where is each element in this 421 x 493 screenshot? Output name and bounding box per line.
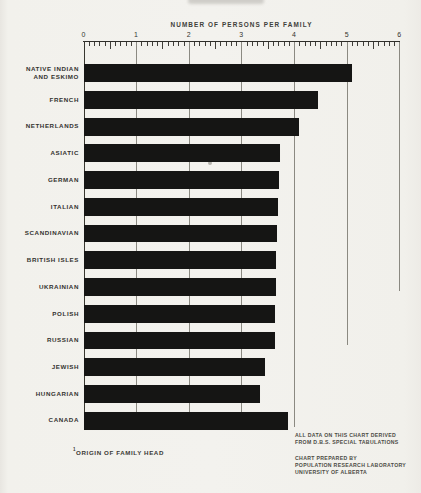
x-minor-tick bbox=[105, 42, 106, 47]
bar-ukrainian bbox=[84, 278, 277, 296]
bar-asiatic bbox=[84, 144, 281, 162]
x-minor-tick bbox=[178, 42, 179, 47]
x-minor-tick bbox=[310, 42, 311, 47]
bar-jewish bbox=[84, 358, 266, 376]
x-minor-tick bbox=[126, 42, 127, 47]
page: NUMBER OF PERSONS PER FAMILY 0123456NATI… bbox=[0, 0, 421, 493]
footnote-text: ORIGIN OF FAMILY HEAD bbox=[76, 449, 164, 456]
bar-italian bbox=[84, 198, 279, 216]
x-tick-label-2: 2 bbox=[187, 31, 191, 38]
bar-scandinavian bbox=[84, 225, 278, 243]
source-line: ALL DATA ON THIS CHART DERIVED bbox=[295, 432, 399, 439]
x-minor-tick bbox=[152, 42, 153, 47]
x-minor-tick bbox=[199, 42, 200, 47]
x-minor-tick bbox=[357, 42, 358, 47]
x-minor-tick bbox=[184, 42, 185, 47]
x-minor-tick bbox=[252, 42, 253, 47]
x-minor-tick bbox=[147, 42, 148, 47]
x-minor-tick bbox=[215, 42, 216, 49]
x-minor-tick bbox=[326, 42, 327, 47]
x-tick-label-0: 0 bbox=[81, 31, 85, 38]
bar-canada bbox=[84, 412, 289, 430]
x-minor-tick bbox=[305, 42, 306, 47]
x-minor-tick bbox=[263, 42, 264, 47]
x-minor-tick bbox=[299, 42, 300, 47]
x-minor-tick bbox=[110, 42, 111, 49]
x-minor-tick bbox=[231, 42, 232, 47]
x-minor-tick bbox=[168, 42, 169, 47]
credit-note: CHART PREPARED BY POPULATION RESEARCH LA… bbox=[295, 455, 406, 477]
x-minor-tick bbox=[99, 42, 100, 47]
x-minor-tick bbox=[273, 42, 274, 47]
x-tick-label-1: 1 bbox=[134, 31, 138, 38]
x-minor-tick bbox=[352, 42, 353, 47]
x-minor-tick bbox=[315, 42, 316, 47]
x-tick-label-4: 4 bbox=[292, 31, 296, 38]
source-line: FROM D.B.S. SPECIAL TABULATIONS bbox=[295, 439, 399, 446]
x-minor-tick bbox=[247, 42, 248, 47]
x-minor-tick bbox=[378, 42, 379, 47]
x-minor-tick bbox=[120, 42, 121, 47]
x-minor-tick bbox=[389, 42, 390, 47]
x-tick-label-5: 5 bbox=[345, 31, 349, 38]
x-tick-label-3: 3 bbox=[239, 31, 243, 38]
x-minor-tick bbox=[220, 42, 221, 47]
bar-label-russian: RUSSIAN bbox=[0, 330, 79, 352]
bar-label-jewish: JEWISH bbox=[0, 356, 79, 378]
bar-label-polish: POLISH bbox=[0, 303, 79, 325]
gridline-5 bbox=[347, 41, 348, 345]
source-note: ALL DATA ON THIS CHART DERIVED FROM D.B.… bbox=[295, 432, 399, 446]
x-minor-tick bbox=[157, 42, 158, 47]
credit-line: POPULATION RESEARCH LABORATORY bbox=[295, 462, 406, 469]
x-minor-tick bbox=[278, 42, 279, 47]
x-minor-tick bbox=[368, 42, 369, 47]
x-minor-tick bbox=[89, 42, 90, 47]
bar-label-canada: CANADA bbox=[0, 410, 79, 432]
scan-smudge-artifact bbox=[188, 0, 264, 4]
credit-line: UNIVERSITY OF ALBERTA bbox=[295, 469, 406, 476]
x-minor-tick bbox=[284, 42, 285, 47]
x-minor-tick bbox=[373, 42, 374, 49]
x-minor-tick bbox=[141, 42, 142, 47]
bar-label-hungarian: HUNGARIAN bbox=[0, 383, 79, 405]
x-minor-tick bbox=[341, 42, 342, 47]
bar-hungarian bbox=[84, 385, 261, 403]
bar-russian bbox=[84, 332, 276, 350]
x-minor-tick bbox=[236, 42, 237, 47]
x-minor-tick bbox=[194, 42, 195, 47]
x-tick-label-6: 6 bbox=[397, 31, 401, 38]
bar-label-british-isles: BRITISH ISLES bbox=[0, 249, 79, 271]
x-minor-tick bbox=[394, 42, 395, 47]
credit-line: CHART PREPARED BY bbox=[295, 455, 406, 462]
bar-french bbox=[84, 91, 318, 109]
bar-netherlands bbox=[84, 118, 300, 136]
bar-label-asiatic: ASIATIC bbox=[0, 142, 79, 164]
x-minor-tick bbox=[131, 42, 132, 47]
x-minor-tick bbox=[94, 42, 95, 47]
bar-polish bbox=[84, 305, 276, 323]
x-minor-tick bbox=[336, 42, 337, 47]
x-minor-tick bbox=[289, 42, 290, 47]
bar-label-native-indian-and-eskimo: NATIVE INDIAN AND ESKIMO bbox=[0, 62, 79, 84]
x-minor-tick bbox=[205, 42, 206, 47]
x-minor-tick bbox=[320, 42, 321, 49]
bar-native-indian-and-eskimo bbox=[84, 64, 353, 82]
footnote: 1ORIGIN OF FAMILY HEAD bbox=[73, 447, 164, 456]
bar-label-german: GERMAN bbox=[0, 169, 79, 191]
x-minor-tick bbox=[173, 42, 174, 47]
x-minor-tick bbox=[363, 42, 364, 47]
bar-label-scandinavian: SCANDINAVIAN bbox=[0, 223, 79, 245]
x-minor-tick bbox=[210, 42, 211, 47]
chart-title: NUMBER OF PERSONS PER FAMILY bbox=[83, 21, 400, 28]
bar-label-ukrainian: UKRAINIAN bbox=[0, 276, 79, 298]
bar-label-netherlands: NETHERLANDS bbox=[0, 116, 79, 138]
x-minor-tick bbox=[384, 42, 385, 47]
bar-label-italian: ITALIAN bbox=[0, 196, 79, 218]
x-minor-tick bbox=[162, 42, 163, 49]
x-minor-tick bbox=[268, 42, 269, 49]
bar-british-isles bbox=[84, 251, 277, 269]
gridline-6 bbox=[399, 41, 400, 291]
x-minor-tick bbox=[331, 42, 332, 47]
bar-german bbox=[84, 171, 280, 189]
bar-label-french: FRENCH bbox=[0, 89, 79, 111]
